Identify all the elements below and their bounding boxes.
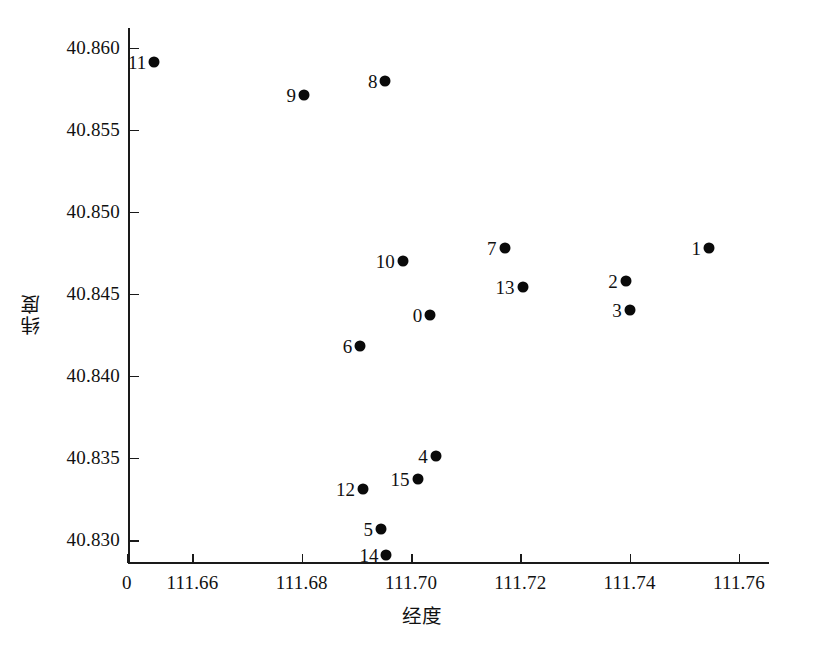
data-point-marker <box>620 275 631 286</box>
x-tick-label: 111.66 <box>166 572 218 594</box>
scatter-plot-figure: 40.86040.85540.85040.84540.84040.83540.8… <box>0 0 825 657</box>
data-point-label: 15 <box>391 470 410 489</box>
y-tick-label: 40.855 <box>67 119 120 141</box>
data-point-marker <box>381 549 392 560</box>
data-point-marker <box>430 451 441 462</box>
data-point-label: 12 <box>336 480 355 499</box>
data-point-label: 4 <box>418 447 428 466</box>
data-point-marker <box>412 474 423 485</box>
y-tick-label: 40.845 <box>67 283 120 305</box>
data-point-label: 6 <box>343 337 353 356</box>
data-point-label: 3 <box>612 301 622 320</box>
x-tick-label: 111.72 <box>494 572 546 594</box>
x-tick-label: 111.70 <box>385 572 437 594</box>
x-axis-title-text: 经度 <box>402 606 442 627</box>
data-point-marker <box>380 75 391 86</box>
data-point-label: 7 <box>487 238 497 257</box>
data-point-marker <box>376 523 387 534</box>
data-point-label: 1 <box>691 238 701 257</box>
plot-area: 0123456789101112131415 <box>128 28 769 563</box>
x-tick-label: 111.68 <box>276 572 328 594</box>
y-axis-title: 纬度 <box>14 0 48 657</box>
x-tick-label: 111.76 <box>713 572 765 594</box>
x-tick-label: 0 <box>122 572 132 594</box>
data-point-marker <box>624 305 635 316</box>
y-tick-label: 40.840 <box>67 365 120 387</box>
data-point-label: 0 <box>413 306 423 325</box>
x-tick-label: 111.74 <box>604 572 656 594</box>
data-point-label: 11 <box>128 53 146 72</box>
y-tick-label: 40.850 <box>67 201 120 223</box>
y-axis-title-text: 纬度 <box>17 293 46 335</box>
data-point-label: 8 <box>368 71 378 90</box>
data-point-marker <box>499 242 510 253</box>
y-tick-label: 40.835 <box>67 447 120 469</box>
x-axis-title: 经度 <box>0 600 825 629</box>
data-point-marker <box>517 282 528 293</box>
data-point-marker <box>425 310 436 321</box>
data-point-marker <box>357 484 368 495</box>
data-point-marker <box>298 90 309 101</box>
data-point-label: 2 <box>608 271 618 290</box>
data-point-label: 9 <box>286 86 296 105</box>
data-point-label: 13 <box>496 278 515 297</box>
data-point-marker <box>397 256 408 267</box>
y-tick-label: 40.830 <box>67 529 120 551</box>
data-point-label: 10 <box>376 252 395 271</box>
data-point-label: 14 <box>359 545 378 564</box>
data-point-marker <box>149 57 160 68</box>
data-point-marker <box>355 341 366 352</box>
y-tick-label: 40.860 <box>67 37 120 59</box>
data-point-label: 5 <box>364 519 374 538</box>
data-point-marker <box>703 242 714 253</box>
